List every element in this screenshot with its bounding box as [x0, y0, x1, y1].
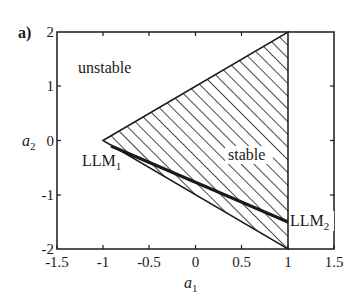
- x-axis-label: a1: [184, 274, 198, 294]
- unstable-label: unstable: [78, 59, 131, 76]
- llm1-label: LLM1: [82, 152, 121, 172]
- svg-text:-0.5: -0.5: [137, 254, 161, 270]
- x-tick-labels: -1.5 -1 -0.5 0 0.5 1 1.5: [45, 254, 343, 270]
- svg-text:0.5: 0.5: [232, 254, 251, 270]
- svg-text:0: 0: [192, 254, 200, 270]
- svg-text:1.5: 1.5: [325, 254, 344, 270]
- svg-text:1: 1: [47, 78, 55, 94]
- panel-label: a): [18, 24, 31, 42]
- svg-text:-1: -1: [97, 254, 110, 270]
- y-axis-label: a2: [22, 132, 36, 152]
- svg-text:-2: -2: [42, 241, 55, 257]
- svg-text:-1: -1: [42, 187, 55, 203]
- svg-text:0: 0: [47, 133, 55, 149]
- svg-text:1: 1: [284, 254, 292, 270]
- y-tick-labels: 2 1 0 -1 -2: [42, 24, 55, 257]
- stability-triangle-chart: a) -1.5 -1 -0.5 0 0.5 1 1: [0, 0, 360, 305]
- svg-text:2: 2: [47, 24, 55, 40]
- stable-label: stable: [228, 146, 265, 163]
